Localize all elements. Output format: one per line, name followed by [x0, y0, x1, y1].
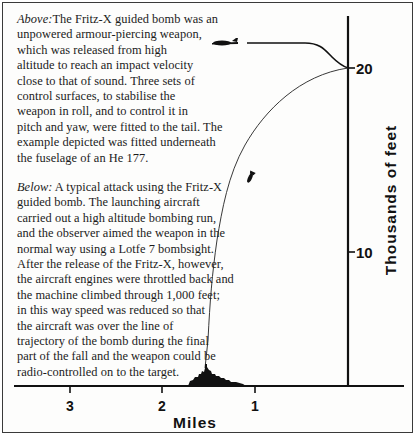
aircraft-icon [212, 38, 238, 46]
y-axis-label: Thousands of feet [382, 125, 399, 275]
y-tick-20: 20 [348, 60, 373, 77]
bomb-icon [245, 170, 256, 183]
attack-diagram: 20 10 Thousands of feet 3 2 1 Miles [0, 0, 417, 438]
y-tick-label: 20 [356, 60, 373, 77]
aircraft-flight-path [247, 43, 348, 68]
x-tick-3: 3 [66, 386, 74, 414]
ship-icon [188, 364, 246, 386]
y-tick-label: 10 [356, 244, 373, 261]
x-tick-label: 3 [66, 398, 74, 414]
x-tick-label: 2 [158, 398, 166, 414]
x-axis-label: Miles [173, 414, 217, 431]
x-tick-1: 1 [251, 386, 259, 414]
bomb-trajectory [205, 68, 348, 368]
x-tick-label: 1 [251, 398, 259, 414]
x-tick-2: 2 [158, 386, 166, 414]
y-tick-10: 10 [348, 244, 373, 261]
